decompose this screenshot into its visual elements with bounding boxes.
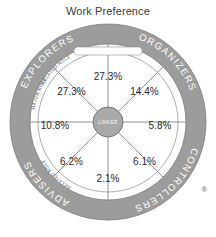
sector-value-4: 2.1%	[97, 173, 120, 184]
wheel-svg: EXPLORERS ORGANIZERS CONTROLLERS ADVISER…	[8, 22, 208, 222]
sector-value-7: 27.3%	[57, 86, 85, 97]
work-preference-chart: Work Preference	[0, 0, 216, 237]
page-title: Work Preference	[0, 5, 216, 17]
sector-value-6: 10.8%	[41, 120, 69, 131]
sector-value-2: 5.8%	[149, 120, 172, 131]
band-box-related-role-top	[74, 47, 142, 55]
hub: LINKER	[93, 107, 123, 137]
sector-value-1: 14.4%	[130, 86, 158, 97]
sector-value-3: 6.1%	[133, 156, 156, 167]
sector-value-5: 6.2%	[60, 156, 83, 167]
preference-wheel: EXPLORERS ORGANIZERS CONTROLLERS ADVISER…	[8, 22, 208, 222]
sector-value-0: 27.3%	[94, 71, 122, 82]
registered-trademark-symbol: ®	[202, 186, 207, 193]
hub-label: LINKER	[98, 120, 118, 125]
